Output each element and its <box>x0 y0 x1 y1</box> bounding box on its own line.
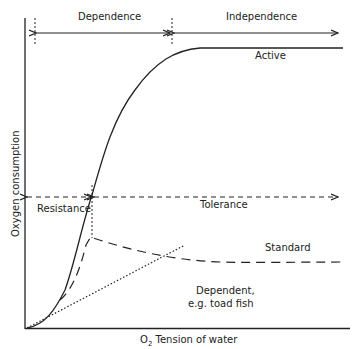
tolerance-label: Tolerance <box>200 200 248 210</box>
dependent-curve-label-line2: e.g. toad fish <box>188 299 254 309</box>
independence-label: Independence <box>226 12 297 22</box>
y-axis-label: Oxygen consumption <box>10 131 21 237</box>
dependence-label: Dependence <box>78 12 141 22</box>
active-curve <box>27 48 343 328</box>
diagram-canvas <box>0 0 356 349</box>
standard-curve-label: Standard <box>265 243 311 253</box>
dependent-curve-label-line1: Dependent, <box>196 286 255 296</box>
resistance-label: Resistance <box>37 204 91 214</box>
active-curve-label: Active <box>255 51 286 61</box>
dependent-curve <box>27 245 185 328</box>
x-axis-label: O2 Tension of water <box>140 335 237 348</box>
